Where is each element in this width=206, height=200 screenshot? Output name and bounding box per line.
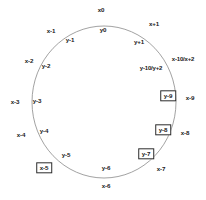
- node-label-y-2: y-2: [42, 63, 50, 69]
- node-label-x-1: x-1: [47, 28, 55, 34]
- ring-diagram-figure: x0x+1x-10/x+2x-9x-8x-7x-6x-5x-4x-3x-2x-1…: [0, 0, 206, 200]
- node-label-y-5: y-5: [62, 152, 70, 158]
- node-label-x-7: x-7: [157, 166, 165, 172]
- circle-outline: [32, 26, 176, 178]
- node-label-x-2: x-2: [25, 58, 33, 64]
- node-label-y-8: y-8: [155, 124, 171, 135]
- node-label-y0: y0: [100, 27, 106, 33]
- node-label-x-10-x-2: x-10/x+2: [172, 56, 194, 62]
- node-label-y-3: y-3: [33, 98, 41, 104]
- node-label-x-5: x-5: [36, 162, 52, 173]
- node-label-x-4: x-4: [17, 132, 25, 138]
- node-label-x-9: x-9: [186, 95, 194, 101]
- node-label-x-8: x-8: [181, 130, 189, 136]
- node-label-x-6: x-6: [102, 183, 110, 189]
- node-label-y-6: y-6: [102, 165, 110, 171]
- node-label-y-10-y-2: y-10/y+2: [140, 65, 162, 71]
- node-label-x-3: x-3: [11, 99, 19, 105]
- node-label-y-plus-1: y+1: [134, 39, 144, 45]
- node-label-y-7: y-7: [138, 148, 154, 159]
- node-label-x0: x0: [98, 7, 104, 13]
- node-label-x-plus-1: x+1: [149, 21, 159, 27]
- node-label-y-1: y-1: [66, 37, 74, 43]
- node-label-y-4: y-4: [40, 128, 48, 134]
- node-label-y-9: y-9: [160, 90, 176, 101]
